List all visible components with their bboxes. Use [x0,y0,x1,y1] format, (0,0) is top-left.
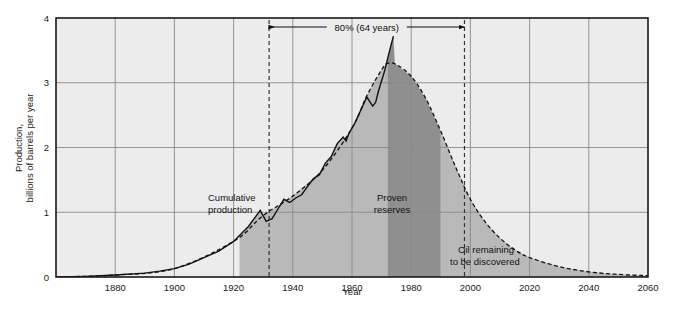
y-axis-tick-labels: 01234 [44,13,49,283]
x-tick-label-1900: 1900 [164,282,185,293]
y-tick-label-0: 0 [44,272,49,283]
cumulative-production-label-line2: production [208,204,252,215]
y-tick-label-4: 4 [44,13,49,24]
x-tick-label-1880: 1880 [105,282,126,293]
x-tick-label-2000: 2000 [460,282,481,293]
y-axis-title-line2: billions of barrels per year [24,94,35,203]
y-tick-label-3: 3 [44,77,49,88]
span-annotation-label: 80% (64 years) [335,22,399,33]
x-axis-tick-labels: 1880190019201940196019802000202020402060 [105,282,659,293]
x-tick-label-1940: 1940 [282,282,303,293]
proven-reserves-label-line1: Proven [377,192,407,203]
chart-canvas: 1880190019201940196019802000202020402060… [0,0,676,309]
oil-remaining-label-line1: Oil remaining [458,244,514,255]
x-tick-label-2040: 2040 [578,282,599,293]
x-tick-label-2060: 2060 [637,282,658,293]
oil-remaining-label-line2: to be discovered [450,256,520,267]
cumulative-production-label-line1: Cumulative [208,192,256,203]
x-axis-title: Year [342,286,361,297]
x-tick-label-1980: 1980 [401,282,422,293]
y-tick-label-1: 1 [44,207,49,218]
y-tick-label-2: 2 [44,142,49,153]
proven-reserves-label-line2: reserves [374,204,411,215]
x-tick-label-1920: 1920 [223,282,244,293]
peak-oil-production-chart: 1880190019201940196019802000202020402060… [0,0,676,309]
x-tick-label-2020: 2020 [519,282,540,293]
y-axis-title-line1: Production, [13,124,24,172]
